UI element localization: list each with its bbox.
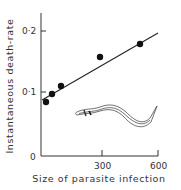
x-tick-label-600: 600 bbox=[150, 161, 167, 171]
data-point bbox=[97, 54, 103, 60]
data-point bbox=[49, 91, 55, 97]
y-tick-label-0: 0 bbox=[30, 152, 36, 162]
x-tick-label-300: 300 bbox=[94, 161, 111, 171]
x-axis-title: Size of parasite infection bbox=[32, 173, 165, 184]
y-tick-label-0.1: 0·1 bbox=[22, 87, 36, 97]
data-point bbox=[58, 83, 64, 89]
data-point bbox=[137, 41, 143, 47]
nematode-worm-illustration bbox=[76, 105, 158, 127]
y-tick-label-0.2: 0·2 bbox=[22, 26, 36, 36]
y-axis-title: Instantaneous death-rate bbox=[4, 18, 15, 153]
data-point bbox=[43, 99, 49, 105]
chart: 0·2 0·1 0 300 600 Size of parasite infec… bbox=[0, 0, 181, 190]
